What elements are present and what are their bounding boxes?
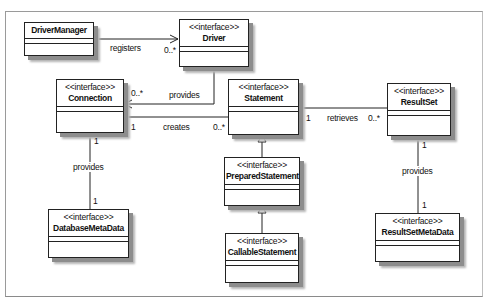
multiplicity-creates-source: 1 (131, 122, 136, 132)
stereotype-label: <<interface>> (230, 82, 297, 93)
label-creates: creates (163, 122, 189, 132)
label-driver-provides: provides (169, 90, 200, 100)
class-database-meta-data[interactable]: <<interface>> DatabaseMetaData (48, 209, 129, 258)
class-name: ResultSetMetaData (377, 227, 458, 238)
class-driver[interactable]: <<interface>> Driver (179, 19, 249, 67)
stereotype-label: <<interface>> (50, 212, 127, 223)
class-name: Statement (230, 93, 297, 104)
stereotype-label: <<interface>> (227, 236, 297, 247)
multiplicity-retrieves-source: 1 (306, 113, 311, 123)
operations-compartment (376, 245, 459, 246)
class-name: ResultSet (389, 97, 449, 108)
stereotype-label: <<interface>> (226, 160, 298, 171)
stereotype-label: <<interface>> (389, 86, 449, 97)
operations-compartment (229, 111, 298, 112)
class-name: Driver (181, 33, 247, 44)
class-prepared-statement[interactable]: <<interface>> PreparedStatement (224, 157, 300, 206)
operations-compartment (25, 43, 93, 44)
class-name: DatabaseMetaData (50, 223, 127, 234)
class-name: DriverManager (26, 25, 92, 36)
operations-compartment (49, 241, 128, 242)
operations-compartment (57, 111, 123, 112)
class-callable-statement[interactable]: <<interface>> CallableStatement (225, 233, 299, 283)
multiplicity-conn-provides-target: 1 (93, 196, 98, 206)
multiplicity-driver-provides-target: 0..* (131, 88, 143, 98)
multiplicity-creates-target: 0..* (213, 122, 225, 132)
label-rs-provides: provides (402, 166, 433, 176)
operations-compartment (225, 189, 299, 190)
class-name: Connection (58, 93, 122, 104)
class-result-set[interactable]: <<interface>> ResultSet (387, 83, 451, 136)
stereotype-label: <<interface>> (58, 82, 122, 93)
operations-compartment (180, 51, 248, 52)
class-name: CallableStatement (227, 247, 297, 258)
stereotype-label: <<interface>> (377, 216, 458, 227)
multiplicity-retrieves-target: 0..* (368, 113, 380, 123)
label-retrieves: retrieves (327, 113, 358, 123)
multiplicity-registers-target: 0..* (164, 45, 176, 55)
class-statement[interactable]: <<interface>> Statement (228, 79, 299, 135)
stereotype-label: <<interface>> (181, 22, 247, 33)
class-name: PreparedStatement (226, 171, 298, 182)
label-conn-provides: provides (73, 162, 104, 172)
operations-compartment (388, 115, 450, 116)
multiplicity-rs-provides-source: 1 (422, 140, 427, 150)
operations-compartment (226, 265, 298, 266)
multiplicity-conn-provides-source: 1 (94, 136, 99, 146)
class-connection[interactable]: <<interface>> Connection (56, 79, 124, 133)
class-result-set-meta-data[interactable]: <<interface>> ResultSetMetaData (375, 213, 460, 262)
label-registers: registers (110, 43, 141, 53)
multiplicity-rs-provides-target: 1 (422, 200, 427, 210)
class-driver-manager[interactable]: DriverManager (24, 22, 94, 56)
